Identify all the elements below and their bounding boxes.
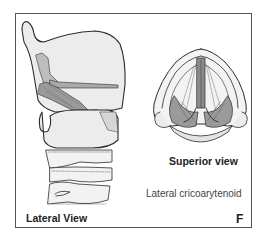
larynx-illustration — [0, 0, 262, 242]
superior-view-drawing — [154, 49, 248, 142]
superior-view-label: Superior view — [169, 155, 238, 167]
lateral-view-label: Lateral View — [26, 212, 87, 224]
panel-letter: F — [236, 212, 243, 226]
lateral-view-drawing — [22, 22, 125, 204]
muscle-label: Lateral cricoarytenoid — [146, 188, 242, 199]
